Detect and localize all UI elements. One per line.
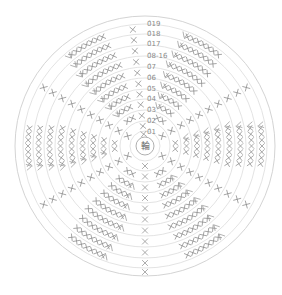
single-crochet-symbol <box>94 36 100 42</box>
single-crochet-symbol <box>94 250 100 256</box>
single-crochet-symbol <box>168 158 175 165</box>
single-crochet-symbol <box>78 241 85 248</box>
single-crochet-symbol <box>142 239 147 244</box>
single-crochet-symbol <box>259 155 264 160</box>
single-crochet-symbol <box>68 234 75 241</box>
single-crochet-symbol <box>97 201 104 208</box>
single-crochet-symbol <box>37 126 43 132</box>
single-crochet-symbol <box>91 140 96 145</box>
magic-ring-label: 輪 <box>141 140 150 151</box>
single-crochet-symbol <box>196 111 203 118</box>
single-crochet-symbol <box>80 144 85 149</box>
single-crochet-symbol <box>154 171 160 177</box>
single-crochet-symbol <box>96 116 103 123</box>
single-crochet-symbol <box>94 48 100 54</box>
single-crochet-symbol <box>142 174 147 179</box>
single-crochet-symbol <box>58 138 63 143</box>
single-crochet-symbol <box>99 45 105 51</box>
single-crochet-symbol <box>136 81 142 87</box>
single-crochet-symbol <box>40 201 47 208</box>
single-crochet-symbol <box>94 225 101 232</box>
single-crochet-symbol <box>205 57 212 64</box>
single-crochet-symbol <box>174 233 180 239</box>
single-crochet-symbol <box>205 149 210 154</box>
single-crochet-symbol <box>36 149 41 154</box>
single-crochet-symbol <box>195 51 202 58</box>
round-number-label: 0̂7 <box>147 63 156 71</box>
single-crochet-symbol <box>260 144 265 149</box>
single-crochet-symbol <box>190 36 196 42</box>
single-crochet-symbol <box>102 81 109 88</box>
single-crochet-symbol <box>94 73 101 80</box>
single-crochet-symbol <box>259 149 264 154</box>
single-crochet-symbol <box>116 200 122 206</box>
single-crochet-symbol <box>78 106 85 113</box>
single-crochet-symbol <box>177 163 184 170</box>
single-crochet-symbol <box>186 116 193 123</box>
single-crochet-symbol <box>113 210 119 216</box>
single-crochet-symbol <box>119 73 125 79</box>
single-crochet-symbol <box>238 149 243 154</box>
single-crochet-symbol <box>101 144 106 149</box>
single-crochet-symbol <box>47 144 52 149</box>
round-number-label: 0̂2 <box>147 117 156 125</box>
single-crochet-symbol <box>115 158 122 165</box>
single-crochet-symbol <box>183 95 190 102</box>
single-crochet-symbol <box>142 195 147 200</box>
single-crochet-symbol <box>105 194 112 201</box>
single-crochet-symbol <box>111 197 118 204</box>
single-crochet-symbol <box>159 167 166 174</box>
single-crochet-symbol <box>113 99 120 106</box>
single-crochet-symbol <box>84 219 91 226</box>
single-crochet-symbol <box>26 149 31 154</box>
round-number-label: 0̂8-16 <box>147 52 168 60</box>
single-crochet-symbol <box>129 171 135 177</box>
single-crochet-symbol <box>236 161 242 167</box>
single-crochet-symbol <box>259 138 264 143</box>
single-crochet-symbol <box>181 205 188 212</box>
single-crochet-symbol <box>105 92 112 99</box>
single-crochet-symbol <box>205 137 210 142</box>
single-crochet-symbol <box>194 222 201 229</box>
single-crochet-symbol <box>195 247 201 253</box>
single-crochet-symbol <box>249 138 254 143</box>
single-crochet-symbol <box>178 92 185 99</box>
single-crochet-symbol <box>234 89 241 96</box>
single-crochet-symbol <box>140 123 146 129</box>
single-crochet-symbol <box>48 125 54 131</box>
single-crochet-symbol <box>179 243 185 249</box>
single-crochet-symbol <box>36 144 41 149</box>
single-crochet-symbol <box>37 155 42 160</box>
single-crochet-symbol <box>99 228 105 234</box>
round-number-label: 0̂4 <box>147 95 156 103</box>
single-crochet-symbol <box>176 208 182 214</box>
single-crochet-symbol <box>94 238 100 244</box>
single-crochet-symbol <box>189 73 196 80</box>
single-crochet-symbol <box>91 134 97 140</box>
single-crochet-symbol <box>84 67 91 74</box>
single-crochet-symbol <box>78 179 85 186</box>
single-crochet-symbol <box>216 141 221 146</box>
single-crochet-symbol <box>190 88 197 95</box>
single-crochet-symbol <box>118 96 124 102</box>
single-crochet-symbol <box>70 128 76 134</box>
single-crochet-symbol <box>74 225 81 232</box>
single-crochet-symbol <box>167 110 174 117</box>
single-crochet-symbol <box>142 250 147 255</box>
single-crochet-symbol <box>96 168 103 175</box>
single-crochet-symbol <box>193 152 199 158</box>
single-crochet-symbol <box>163 107 170 114</box>
single-crochet-symbol <box>234 196 241 203</box>
single-crochet-symbol <box>227 138 232 143</box>
single-crochet-symbol <box>249 149 254 154</box>
single-crochet-symbol <box>58 149 63 154</box>
round-number-label: 0̂6 <box>147 74 156 82</box>
single-crochet-symbol <box>210 48 217 55</box>
single-crochet-symbol <box>99 57 105 63</box>
single-crochet-symbol <box>113 75 119 81</box>
single-crochet-symbol <box>195 39 201 45</box>
single-crochet-symbol <box>36 138 41 143</box>
single-crochet-symbol <box>198 80 205 87</box>
magic-ring: 輪 <box>136 137 154 155</box>
single-crochet-symbol <box>88 247 94 253</box>
